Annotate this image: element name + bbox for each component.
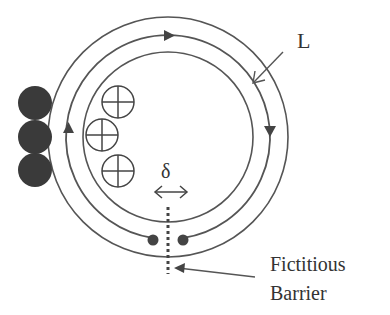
inner-ring: [83, 52, 253, 222]
barrier-pointer-line: [178, 268, 255, 277]
l-pointer-line: [254, 52, 283, 82]
flow-arrow-left-icon: [63, 122, 74, 133]
delta-double-arrow-icon: [155, 186, 187, 198]
dark-circle-1: [18, 86, 52, 120]
label-L: L: [297, 30, 310, 52]
dark-circle-3: [18, 153, 52, 187]
crossed-circle-3: [102, 155, 134, 187]
barrier-pointer-arrowhead-icon: [174, 263, 185, 273]
label-barrier-line2: Barrier: [270, 283, 327, 303]
flow-arrow-top-icon: [164, 30, 175, 41]
flow-end-dot-right: [178, 235, 189, 246]
dark-circle-2: [18, 120, 52, 154]
label-delta: δ: [161, 161, 170, 181]
flow-end-dot-left: [148, 235, 159, 246]
flow-arrow-right-icon: [264, 126, 276, 137]
crossed-circle-1: [102, 86, 134, 118]
label-barrier-line1: Fictitious: [270, 254, 346, 274]
crossed-circle-2: [86, 119, 118, 151]
